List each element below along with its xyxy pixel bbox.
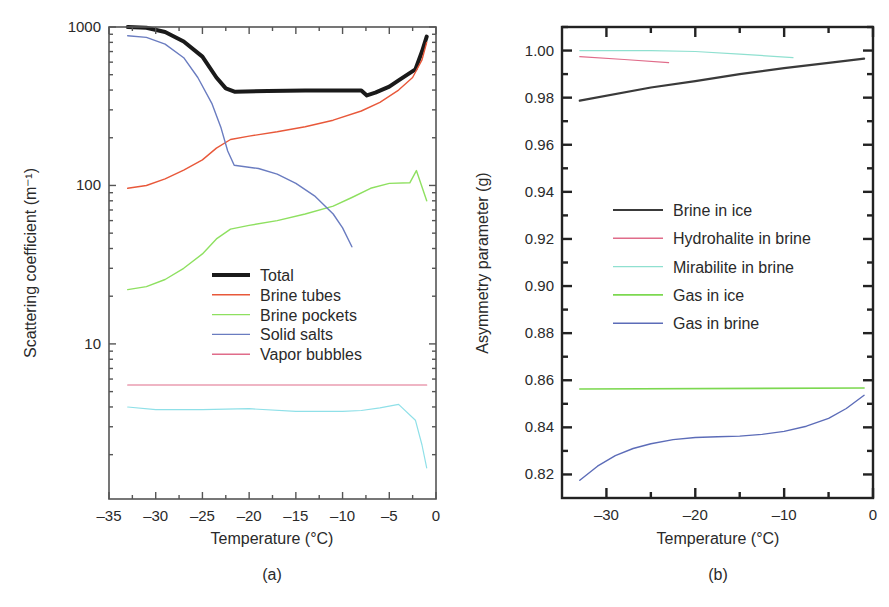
series-line-gas-in-ice	[580, 388, 864, 389]
x-tick-label: –10	[772, 506, 797, 523]
y-tick-label: 0.96	[525, 136, 554, 153]
legend-label: Brine pockets	[260, 307, 357, 324]
plot-a-panel-label: (a)	[262, 566, 282, 583]
x-tick-label: –30	[143, 507, 168, 524]
legend-item-hydrohalite-in-brine: Hydrohalite in brine	[613, 230, 811, 247]
chart-a-scattering-coefficient: –35–30–25–20–15–10–50101001000 TotalBrin…	[0, 0, 889, 607]
x-tick-label: –35	[96, 507, 121, 524]
legend-item-brine-in-ice: Brine in ice	[613, 202, 752, 219]
legend-label: Total	[260, 267, 294, 284]
series-line-brine-tubes	[128, 42, 427, 188]
legend-label: Gas in brine	[673, 315, 759, 332]
legend-item-gas-in-brine: Gas in brine	[613, 315, 759, 332]
y-tick-label: 0.92	[525, 230, 554, 247]
y-tick-label: 1.00	[525, 42, 554, 59]
legend-label: Brine in ice	[673, 202, 752, 219]
plot-b-xlabel: Temperature (°C)	[657, 530, 780, 547]
plot-a-xlabel: Temperature (°C)	[211, 530, 334, 547]
legend-item-solid-salts: Solid salts	[212, 326, 333, 343]
legend-label: Solid salts	[260, 326, 333, 343]
series-line-unlabeled	[128, 404, 427, 468]
x-tick-label: –25	[190, 507, 215, 524]
plot-a-series	[128, 27, 427, 468]
y-tick-label: 0.98	[525, 89, 554, 106]
x-tick-label: –30	[594, 506, 619, 523]
y-tick-label: 1000	[68, 18, 101, 35]
legend-item-brine-pockets: Brine pockets	[212, 307, 357, 324]
plot-b-ylabel: Asymmetry parameter (g)	[474, 172, 491, 353]
plot-a-ylabel: Scattering coefficient (m⁻¹)	[22, 168, 39, 358]
y-tick-label: 0.86	[525, 371, 554, 388]
legend-label: Vapor bubbles	[260, 346, 362, 363]
series-line-hydrohalite-in-brine	[580, 57, 669, 63]
x-tick-label: 0	[869, 506, 877, 523]
y-tick-label: 100	[76, 176, 101, 193]
series-line-gas-in-brine	[580, 395, 864, 480]
y-tick-label: 10	[84, 335, 101, 352]
legend-item-brine-tubes: Brine tubes	[212, 287, 341, 304]
legend-label: Brine tubes	[260, 287, 341, 304]
y-tick-label: 0.94	[525, 183, 554, 200]
y-tick-label: 0.84	[525, 418, 554, 435]
y-tick-label: 0.88	[525, 324, 554, 341]
legend-label: Gas in ice	[673, 287, 744, 304]
x-tick-label: –20	[237, 507, 262, 524]
series-line-brine-in-ice	[580, 59, 864, 101]
y-tick-label: 0.82	[525, 465, 554, 482]
x-tick-label: 0	[432, 507, 440, 524]
y-tick-label: 0.90	[525, 277, 554, 294]
legend-item-total: Total	[212, 267, 294, 284]
x-tick-label: –5	[381, 507, 398, 524]
legend-item-mirabilite-in-brine: Mirabilite in brine	[613, 259, 794, 276]
legend-item-vapor-bubbles: Vapor bubbles	[212, 346, 362, 363]
legend-item-gas-in-ice: Gas in ice	[613, 287, 744, 304]
x-tick-label: –10	[330, 507, 355, 524]
x-tick-label: –15	[283, 507, 308, 524]
plot-a-ticks: –35–30–25–20–15–10–50101001000	[68, 18, 441, 524]
series-line-total	[128, 27, 427, 95]
plot-b-panel-label: (b)	[708, 566, 728, 583]
legend-label: Mirabilite in brine	[673, 259, 794, 276]
plot-a-legend: TotalBrine tubesBrine pocketsSolid salts…	[212, 267, 362, 363]
legend-label: Hydrohalite in brine	[673, 230, 811, 247]
series-line-solid-salts	[128, 36, 352, 247]
plot-b-legend: Brine in iceHydrohalite in brineMirabili…	[613, 202, 811, 332]
series-line-mirabilite-in-brine	[580, 51, 793, 58]
x-tick-label: –20	[683, 506, 708, 523]
